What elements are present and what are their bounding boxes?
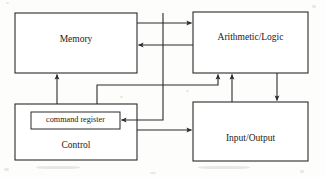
node-input-output-box [193, 102, 308, 161]
node-label-command-register: command register [31, 116, 120, 124]
node-label-control: Control [15, 141, 137, 151]
node-arithmetic-logic-box [193, 12, 308, 73]
node-label-arithmetic-logic: Arithmetic/Logic [193, 33, 308, 43]
node-label-input-output: Input/Output [193, 134, 308, 144]
node-label-memory: Memory [15, 35, 137, 45]
edge-control-to-alu [97, 75, 218, 105]
block-diagram: Memory Arithmetic/Logic Control Input/Ou… [0, 0, 325, 177]
